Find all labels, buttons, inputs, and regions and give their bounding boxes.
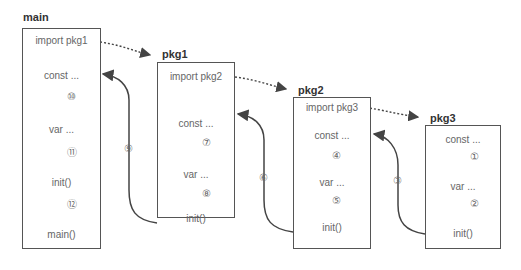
- step-number: ⑧: [202, 188, 211, 199]
- step-init: init(): [158, 213, 234, 224]
- import-statement: import pkg2: [158, 71, 234, 82]
- package-title-pkg2: pkg2: [298, 84, 324, 96]
- import-arrow-pkg1-pkg2: [227, 76, 286, 89]
- return-label: ⑨: [124, 143, 133, 154]
- step-init: init(): [426, 228, 500, 239]
- package-box-pkg2: import pkg3 const ... var ... init(): [293, 97, 371, 249]
- import-statement: import pkg3: [294, 102, 370, 113]
- step-const: const ...: [426, 134, 500, 145]
- step-const: const ...: [23, 70, 100, 81]
- step-number: ⑤: [332, 195, 341, 206]
- step-main: main(): [23, 229, 100, 240]
- step-init: init(): [23, 177, 100, 188]
- step-var: var ...: [158, 169, 234, 180]
- step-var: var ...: [294, 177, 370, 188]
- step-number: ④: [332, 150, 341, 161]
- step-const: const ...: [158, 118, 234, 129]
- package-title-main: main: [23, 11, 49, 23]
- step-const: const ...: [294, 130, 370, 141]
- step-var: var ...: [23, 124, 100, 135]
- step-number: ⑫: [67, 196, 77, 211]
- step-init: init(): [294, 222, 370, 233]
- step-number: ⑦: [202, 137, 211, 148]
- import-statement: import pkg1: [23, 35, 100, 46]
- step-number: ①: [470, 151, 479, 162]
- step-number: ②: [470, 198, 479, 209]
- package-title-pkg1: pkg1: [162, 48, 188, 60]
- return-label: ⑥: [259, 172, 268, 183]
- step-var: var ...: [426, 181, 500, 192]
- step-number: ⑩: [67, 91, 76, 102]
- package-box-pkg1: import pkg2 const ... var ... init(): [157, 62, 235, 218]
- package-title-pkg3: pkg3: [430, 112, 456, 124]
- package-box-pkg3: const ... var ... init(): [425, 125, 501, 249]
- package-box-main: import pkg1 const ... var ... init() mai…: [22, 28, 101, 249]
- step-number: ⑪: [67, 144, 77, 159]
- return-label: ③: [393, 175, 402, 186]
